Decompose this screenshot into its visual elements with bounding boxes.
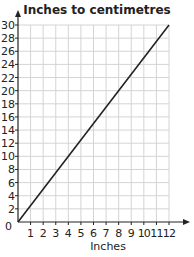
x-tick-label: 9 <box>128 227 135 240</box>
x-tick-label: 10 <box>138 227 151 240</box>
x-axis-label: Inches <box>90 240 126 253</box>
x-tick-label: 12 <box>163 227 175 240</box>
x-tick-label: 6 <box>90 227 97 240</box>
y-tick-label: 6 <box>8 177 15 190</box>
y-tick-label: 28 <box>1 32 15 45</box>
y-axis-arrow-icon <box>15 10 21 17</box>
x-tick-label: 8 <box>115 227 122 240</box>
y-tick-label: 4 <box>8 190 15 203</box>
origin-label: 0 <box>5 220 12 233</box>
x-tick-label: 3 <box>52 227 59 240</box>
y-axis-tick-labels: 246810121416182022242628300 <box>1 19 15 233</box>
y-tick-label: 18 <box>1 98 15 111</box>
y-tick-label: 8 <box>8 163 15 176</box>
x-tick-label: 7 <box>103 227 110 240</box>
x-axis-tick-labels: 123456789101112 <box>27 227 175 240</box>
x-tick-label: 4 <box>65 227 72 240</box>
y-tick-label: 12 <box>1 137 15 150</box>
x-tick-label: 11 <box>150 227 162 240</box>
y-tick-label: 20 <box>1 85 15 98</box>
y-tick-label: 26 <box>1 45 15 58</box>
y-tick-label: 24 <box>1 58 15 71</box>
y-tick-label: 10 <box>1 150 15 163</box>
y-tick-label: 30 <box>1 19 15 32</box>
y-tick-label: 2 <box>8 203 15 216</box>
y-tick-label: 14 <box>1 124 15 137</box>
x-tick-label: 5 <box>77 227 84 240</box>
line-chart: Inches to centimetres 246810121416182022… <box>0 0 194 257</box>
x-tick-label: 1 <box>27 227 34 240</box>
y-tick-label: 22 <box>1 72 15 85</box>
chart-title: Inches to centimetres <box>23 3 171 17</box>
y-tick-label: 16 <box>1 111 15 124</box>
x-tick-label: 2 <box>40 227 47 240</box>
x-axis-arrow-icon <box>183 219 190 225</box>
